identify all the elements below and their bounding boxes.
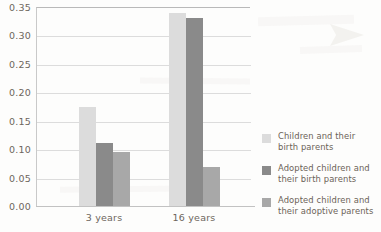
legend-label-line: birth parents [278,142,333,152]
bar [113,152,130,206]
legend-label-line: Adopted children and [278,195,370,205]
scan-artifact [330,24,364,46]
chart-legend: Children and theirbirth parentsAdopted c… [262,131,380,227]
legend-label: Adopted children andtheir birth parents [278,163,380,184]
scan-artifact [300,45,362,54]
legend-swatch [262,198,271,207]
bar [79,107,96,207]
y-tick-label: 0.15 [9,115,31,126]
legend-swatch [262,134,271,143]
legend-label-line: their adoptive parents [278,206,373,216]
legend-label-line: Adopted children and [278,163,370,173]
bars-layer [36,7,250,206]
scan-artifact [258,15,354,27]
legend-label: Adopted children andtheir adoptive paren… [278,195,380,216]
x-tick-label: 16 years [173,212,216,223]
legend-item[interactable]: Children and theirbirth parents [262,131,380,153]
x-axis-line [36,206,255,207]
bar [96,143,113,206]
legend-label: Children and theirbirth parents [278,131,380,152]
y-tick-label: 0.05 [9,172,31,183]
bar [186,18,203,206]
y-tick-label: 0.20 [9,87,31,98]
y-tick-label: 0.25 [9,58,31,69]
legend-item[interactable]: Adopted children andtheir birth parents [262,163,380,185]
bar [203,167,220,206]
legend-swatch [262,166,271,175]
y-tick-label: 0.10 [9,144,31,155]
x-tick-label: 3 years [86,212,123,223]
y-tick-label: 0.00 [9,201,31,212]
bar [169,13,186,206]
legend-label-line: their birth parents [278,174,356,184]
legend-item[interactable]: Adopted children andtheir adoptive paren… [262,195,380,217]
bar-chart-figure: 0.000.050.100.150.200.250.300.35 3 years… [0,0,381,232]
legend-label-line: Children and their [278,131,355,141]
y-tick-label: 0.30 [9,30,31,41]
y-tick-label: 0.35 [9,2,31,13]
